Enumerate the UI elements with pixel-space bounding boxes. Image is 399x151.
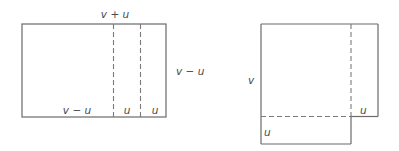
diagram-canvas: v + u v − u v − u u u v u u: [0, 0, 399, 151]
left-rectangle: [22, 24, 166, 117]
label-bottom-u-1: u: [124, 104, 131, 116]
label-top-v-plus-u: v + u: [101, 8, 130, 20]
label-left-v: v: [248, 74, 255, 86]
right-figure: v u u: [248, 24, 378, 144]
label-right-v-minus-u: v − u: [176, 65, 205, 77]
label-bottom-ext-u: u: [264, 126, 271, 138]
label-bottom-u-2: u: [152, 104, 159, 116]
label-bottom-v-minus-u: v − u: [63, 104, 92, 116]
label-right-ext-u: u: [360, 104, 367, 116]
left-figure: v + u v − u v − u u u: [22, 8, 205, 117]
